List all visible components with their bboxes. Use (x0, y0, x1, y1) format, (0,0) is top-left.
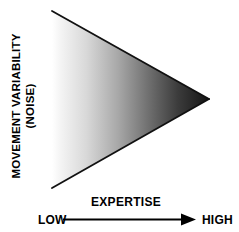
x-axis-high-label: HIGH (202, 213, 233, 227)
x-axis-name: EXPERTISE (91, 195, 161, 209)
x-axis-low-label: LOW (38, 213, 67, 227)
expertise-variability-diagram: MOVEMENT VARIABILITY (NOISE) EXPERTISE L… (0, 0, 239, 232)
y-axis-label-line2: (NOISE) (24, 84, 36, 129)
figure-container: MOVEMENT VARIABILITY (NOISE) EXPERTISE L… (0, 0, 239, 232)
y-axis-label-line1: MOVEMENT VARIABILITY (10, 33, 22, 178)
